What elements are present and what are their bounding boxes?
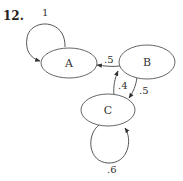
edge-b-to-c [129,77,137,98]
edge-b-to-a [97,65,120,66]
edge-label-a-a: 1 [42,7,48,18]
node-c-label: C [104,104,112,117]
edge-c-to-c [91,125,129,163]
node-b-label: B [143,56,151,69]
node-a: A [41,48,97,78]
node-a-label: A [64,57,74,70]
edge-label-b-c: .5 [139,85,149,96]
markov-chain-diagram: 12. 1 .5 .4 .5 .6 A B C [0,0,183,181]
edge-label-c-b: .4 [118,80,128,91]
edge-label-c-c: .6 [107,164,117,175]
problem-number: 12. [3,9,24,23]
node-c: C [81,94,135,126]
node-b: B [119,45,175,79]
edge-label-b-a: .5 [104,54,114,65]
